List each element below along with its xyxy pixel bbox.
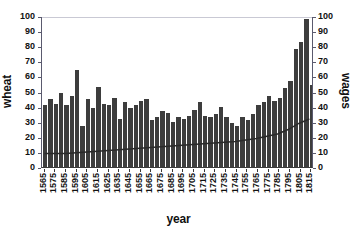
axis-tick-mark bbox=[313, 32, 316, 33]
y-axis-tick-label: 40 bbox=[5, 103, 35, 112]
x-axis-tick-mark bbox=[65, 169, 66, 172]
plot-area bbox=[41, 17, 313, 168]
x-axis-tick-label: 1675 bbox=[156, 173, 165, 193]
x-axis-tick-label: 1605 bbox=[81, 173, 90, 193]
y-axis-tick-label: 70 bbox=[318, 57, 348, 66]
x-axis-tick-mark bbox=[108, 169, 109, 172]
y-axis-tick-label: 30 bbox=[318, 118, 348, 127]
x-axis-title: year bbox=[0, 212, 357, 226]
x-axis-tick-mark bbox=[278, 169, 279, 172]
axis-tick-mark bbox=[313, 62, 316, 63]
x-axis-tick-mark bbox=[150, 169, 151, 172]
axis-tick-mark bbox=[38, 153, 41, 154]
axis-tick-mark bbox=[38, 32, 41, 33]
y-axis-tick-label: 0 bbox=[318, 163, 348, 172]
x-axis-tick-label: 1615 bbox=[92, 173, 101, 193]
plot-inner bbox=[42, 17, 312, 167]
y-axis-tick-label: 30 bbox=[5, 118, 35, 127]
y-axis-tick-label: 40 bbox=[318, 103, 348, 112]
x-axis-tick-label: 1665 bbox=[145, 173, 154, 193]
x-axis-ticks: 1565157515851595160516151625163516451655… bbox=[41, 169, 313, 211]
x-axis-tick-label: 1765 bbox=[252, 173, 261, 193]
y-axis-tick-label: 50 bbox=[318, 88, 348, 97]
axis-tick-mark bbox=[38, 93, 41, 94]
axis-tick-mark bbox=[38, 47, 41, 48]
x-axis-tick-mark bbox=[161, 169, 162, 172]
x-axis-tick-mark bbox=[236, 169, 237, 172]
x-axis-tick-mark bbox=[246, 169, 247, 172]
x-axis-tick-mark bbox=[204, 169, 205, 172]
y-axis-tick-label: 20 bbox=[5, 133, 35, 142]
x-axis-tick-label: 1745 bbox=[231, 173, 240, 193]
y-axis-tick-label: 80 bbox=[318, 42, 348, 51]
axis-tick-mark bbox=[38, 62, 41, 63]
y-axis-tick-label: 100 bbox=[318, 12, 348, 21]
y-axis-tick-label: 60 bbox=[318, 72, 348, 81]
y-axis-tick-label: 50 bbox=[5, 88, 35, 97]
axis-tick-mark bbox=[313, 47, 316, 48]
x-axis-tick-mark bbox=[214, 169, 215, 172]
y-axis-tick-label: 10 bbox=[318, 148, 348, 157]
x-axis-tick-label: 1795 bbox=[284, 173, 293, 193]
x-axis-tick-mark bbox=[97, 169, 98, 172]
y-axis-tick-label: 70 bbox=[5, 57, 35, 66]
x-axis-tick-label: 1645 bbox=[124, 173, 133, 193]
axis-tick-mark bbox=[313, 17, 316, 18]
axis-tick-mark bbox=[313, 108, 316, 109]
x-axis-tick-label: 1585 bbox=[60, 173, 69, 193]
y-axis-tick-label: 90 bbox=[318, 27, 348, 36]
y-axis-tick-label: 10 bbox=[5, 148, 35, 157]
axis-tick-mark bbox=[38, 17, 41, 18]
axis-tick-mark bbox=[313, 77, 316, 78]
x-axis-tick-mark bbox=[44, 169, 45, 172]
x-axis-tick-mark bbox=[268, 169, 269, 172]
wages-line-series bbox=[42, 17, 312, 167]
axis-tick-mark bbox=[38, 138, 41, 139]
x-axis-tick-label: 1775 bbox=[263, 173, 272, 193]
x-axis-tick-mark bbox=[86, 169, 87, 172]
axis-tick-mark bbox=[38, 108, 41, 109]
x-axis-tick-label: 1635 bbox=[113, 173, 122, 193]
x-axis-tick-mark bbox=[289, 169, 290, 172]
y-axis-tick-label: 80 bbox=[5, 42, 35, 51]
x-axis-tick-label: 1575 bbox=[49, 173, 58, 193]
x-axis-tick-label: 1565 bbox=[39, 173, 48, 193]
x-axis-tick-label: 1735 bbox=[220, 173, 229, 193]
x-axis-tick-label: 1715 bbox=[199, 173, 208, 193]
axis-tick-mark bbox=[313, 153, 316, 154]
x-axis-tick-mark bbox=[140, 169, 141, 172]
x-axis-tick-mark bbox=[310, 169, 311, 172]
x-axis-tick-label: 1595 bbox=[71, 173, 80, 193]
x-axis-tick-label: 1725 bbox=[209, 173, 218, 193]
x-axis-tick-mark bbox=[54, 169, 55, 172]
y-axis-tick-label: 20 bbox=[318, 133, 348, 142]
x-axis-tick-mark bbox=[193, 169, 194, 172]
axis-tick-mark bbox=[313, 123, 316, 124]
x-axis-tick-label: 1815 bbox=[305, 173, 314, 193]
x-axis-tick-label: 1655 bbox=[135, 173, 144, 193]
x-axis-tick-label: 1705 bbox=[188, 173, 197, 193]
axis-tick-mark bbox=[313, 93, 316, 94]
chart-container: wheat wages year 0102030405060708090100 … bbox=[0, 0, 357, 232]
x-axis-tick-mark bbox=[129, 169, 130, 172]
axis-tick-mark bbox=[38, 77, 41, 78]
y-axis-tick-label: 60 bbox=[5, 72, 35, 81]
x-axis-tick-mark bbox=[182, 169, 183, 172]
y-axis-tick-label: 100 bbox=[5, 12, 35, 21]
x-axis-tick-mark bbox=[118, 169, 119, 172]
x-axis-tick-label: 1785 bbox=[273, 173, 282, 193]
axis-tick-mark bbox=[38, 123, 41, 124]
axis-tick-mark bbox=[313, 168, 316, 169]
x-axis-tick-mark bbox=[300, 169, 301, 172]
x-axis-tick-label: 1625 bbox=[103, 173, 112, 193]
x-axis-tick-mark bbox=[76, 169, 77, 172]
y-axis-tick-label: 90 bbox=[5, 27, 35, 36]
x-axis-tick-mark bbox=[257, 169, 258, 172]
x-axis-tick-label: 1685 bbox=[167, 173, 176, 193]
y-axis-tick-label: 0 bbox=[5, 163, 35, 172]
x-axis-tick-mark bbox=[172, 169, 173, 172]
x-axis-tick-mark bbox=[225, 169, 226, 172]
x-axis-tick-label: 1805 bbox=[295, 173, 304, 193]
axis-tick-mark bbox=[313, 138, 316, 139]
x-axis-tick-label: 1695 bbox=[177, 173, 186, 193]
